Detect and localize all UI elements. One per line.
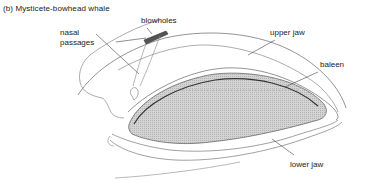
leader-nasal-2: [116, 38, 146, 42]
label-baleen: baleen: [320, 60, 344, 70]
label-nasal-line2: passages: [60, 38, 94, 48]
leader-upper-jaw: [248, 40, 275, 55]
leader-blowholes: [147, 28, 152, 34]
label-lower-jaw: lower jaw: [290, 160, 323, 170]
label-nasal-line1: nasal: [60, 28, 79, 38]
condyle: [130, 88, 138, 100]
label-upper-jaw: upper jaw: [270, 28, 305, 38]
leader-lower-jaw: [272, 139, 294, 155]
label-blowholes: blowholes: [141, 16, 177, 26]
nasal-passage-line-2: [140, 36, 160, 86]
leader-baleen: [285, 72, 318, 87]
lower-jaw-bottom: [115, 162, 240, 178]
nasal-passage-line-1: [133, 44, 146, 86]
blowholes-shape: [144, 31, 168, 44]
whale-skull-diagram: [0, 0, 372, 184]
